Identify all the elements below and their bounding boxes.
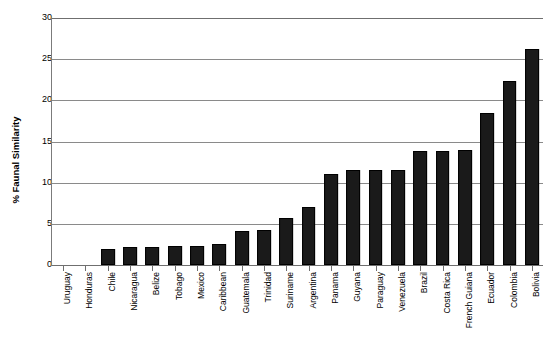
y-tick-label-0: 0 <box>26 260 52 269</box>
x-tick-mark <box>443 265 444 271</box>
x-tick-label-text: Paraguay <box>376 272 385 308</box>
bar-slot <box>454 18 476 265</box>
x-tick-label: Bolivia <box>521 272 543 338</box>
x-tick-label: Guyana <box>342 272 364 338</box>
x-tick-label: Ecuador <box>476 272 498 338</box>
bar <box>212 244 226 265</box>
bar-slot <box>208 18 230 265</box>
bar <box>168 246 182 265</box>
bar-slot <box>253 18 275 265</box>
x-tick-mark <box>376 265 377 271</box>
x-tick-label: Venezuela <box>387 272 409 338</box>
bar-slot <box>186 18 208 265</box>
x-tick-mark <box>130 265 131 271</box>
x-tick-mark <box>197 265 198 271</box>
bar-slot <box>387 18 409 265</box>
bar <box>503 81 517 265</box>
bar-slot <box>342 18 364 265</box>
bar <box>436 151 450 265</box>
x-tick-label-text: Nicaragua <box>130 272 139 311</box>
bar-slot <box>164 18 186 265</box>
y-tick-label-20: 20 <box>26 95 52 104</box>
bar-slot <box>119 18 141 265</box>
x-tick-label-text: Bolivia <box>532 272 541 297</box>
bar-slot <box>364 18 386 265</box>
x-tick-label-text: French Guiana <box>465 272 474 328</box>
x-tick-label-text: Tobago <box>175 272 184 300</box>
x-tick-label: Caribbean <box>208 272 230 338</box>
bar-slot <box>74 18 96 265</box>
bar-series <box>52 18 543 265</box>
bar-slot <box>97 18 119 265</box>
x-tick-label-text: Mexico <box>197 272 206 299</box>
x-tick-label-text: Venezuela <box>398 272 407 312</box>
bar-slot <box>498 18 520 265</box>
bar-slot <box>298 18 320 265</box>
x-tick-label: Guatemala <box>231 272 253 338</box>
y-tick-label-25: 25 <box>26 54 52 63</box>
x-tick-mark <box>264 265 265 271</box>
y-tick-label-15: 15 <box>26 137 52 146</box>
x-tick-label: Costa Rica <box>431 272 453 338</box>
x-tick-label: Trinidad <box>253 272 275 338</box>
y-tick-label-10: 10 <box>26 178 52 187</box>
x-tick-mark <box>309 265 310 271</box>
x-tick-label: Panama <box>320 272 342 338</box>
x-tick-label: Belize <box>141 272 163 338</box>
x-tick-mark <box>219 265 220 271</box>
bar <box>324 174 338 265</box>
x-tick-label-text: Suriname <box>286 272 295 308</box>
x-tick-mark <box>108 265 109 271</box>
x-tick-mark <box>242 265 243 271</box>
x-tick-label-text: Ecuador <box>487 272 496 304</box>
x-tick-mark <box>353 265 354 271</box>
bar <box>480 113 494 265</box>
x-tick-mark <box>487 265 488 271</box>
x-tick-label: Colombia <box>498 272 520 338</box>
bar <box>146 247 160 265</box>
x-tick-label-text: Uruguay <box>63 272 72 304</box>
bar <box>101 249 115 265</box>
x-tick-mark <box>465 265 466 271</box>
bar <box>391 170 405 266</box>
bar-slot <box>52 18 74 265</box>
bar <box>257 230 271 265</box>
bar <box>458 150 472 265</box>
x-tick-mark <box>510 265 511 271</box>
x-tick-label: Uruguay <box>52 272 74 338</box>
x-tick-label: Brazil <box>409 272 431 338</box>
x-tick-label: Paraguay <box>364 272 386 338</box>
x-tick-label: Chile <box>97 272 119 338</box>
bar-slot <box>431 18 453 265</box>
x-tick-label: French Guiana <box>454 272 476 338</box>
bar <box>123 247 137 265</box>
x-tick-label-text: Guyana <box>353 272 362 302</box>
bar-chart: % Faunal Similarity 051015202530 Uruguay… <box>0 0 549 352</box>
y-tick-label-30: 30 <box>26 13 52 22</box>
x-tick-label-text: Panama <box>331 272 340 304</box>
bar <box>302 207 316 265</box>
bar-slot <box>476 18 498 265</box>
bar-slot <box>409 18 431 265</box>
x-tick-label: Mexico <box>186 272 208 338</box>
bar <box>413 151 427 265</box>
bar <box>279 218 293 265</box>
bar <box>346 170 360 265</box>
bar-slot <box>231 18 253 265</box>
x-tick-mark <box>175 265 176 271</box>
x-axis-tick-labels: UruguayHondurasChileNicaraguaBelizeTobag… <box>52 272 543 342</box>
bar <box>525 49 539 265</box>
x-tick-mark <box>63 265 64 271</box>
x-axis-tick-marks <box>52 265 543 271</box>
bar-slot <box>275 18 297 265</box>
bar-slot <box>521 18 543 265</box>
x-tick-label: Suriname <box>275 272 297 338</box>
x-tick-mark <box>398 265 399 271</box>
x-tick-mark <box>420 265 421 271</box>
x-tick-label-text: Brazil <box>420 272 429 293</box>
bar <box>369 170 383 265</box>
x-tick-label-text: Argentina <box>309 272 318 308</box>
x-tick-label: Honduras <box>74 272 96 338</box>
x-tick-label-text: Chile <box>108 272 117 291</box>
bar <box>190 246 204 265</box>
